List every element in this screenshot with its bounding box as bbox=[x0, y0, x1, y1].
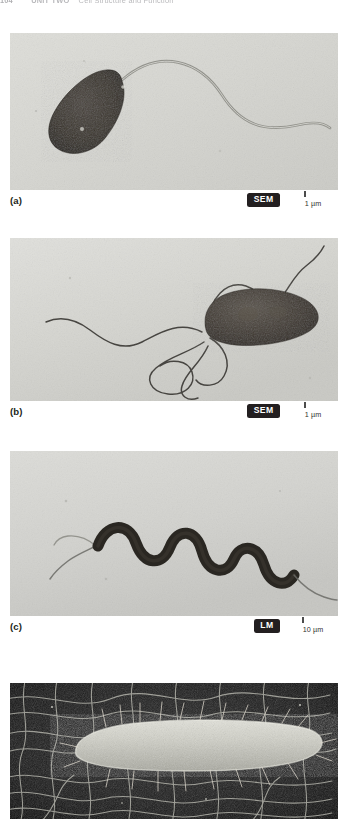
figure-panel-a: (a) SEM 1 µm bbox=[10, 33, 338, 212]
panel-letter-a: (a) bbox=[10, 195, 22, 206]
scale-bar-label-b: 1 µm bbox=[305, 410, 322, 419]
micrograph-c bbox=[10, 451, 338, 616]
micrograph-d bbox=[10, 683, 338, 819]
figure-panel-c: (c) LM 10 µm bbox=[10, 451, 338, 638]
scale-bar-label-a: 1 µm bbox=[305, 199, 322, 208]
caption-row-b: (b) SEM 1 µm bbox=[10, 401, 338, 423]
caption-row-a: (a) SEM 1 µm bbox=[10, 190, 338, 212]
micrograph-b-artwork bbox=[10, 238, 338, 401]
caption-row-c: (c) LM 10 µm bbox=[10, 616, 338, 638]
chapter-title: Cell Structure and Function bbox=[79, 0, 174, 5]
scale-bar-label-c: 10 µm bbox=[303, 625, 324, 634]
panel-letter-b: (b) bbox=[10, 406, 23, 417]
technique-badge-b: SEM bbox=[247, 404, 280, 418]
micrograph-b bbox=[10, 238, 338, 401]
micrograph-a-artwork bbox=[10, 33, 338, 190]
panel-letter-c: (c) bbox=[10, 621, 22, 632]
unit-label: UNIT TWO bbox=[31, 0, 69, 5]
micrograph-d-artwork bbox=[10, 683, 338, 819]
scale-bar-c: 10 µm bbox=[288, 618, 338, 636]
technique-badge-c: LM bbox=[254, 619, 280, 633]
scale-bar-a: 1 µm bbox=[288, 192, 338, 210]
micrograph-a bbox=[10, 33, 338, 190]
running-head: 104 UNIT TWO Cell Structure and Function bbox=[0, 0, 343, 6]
figure-panel-b: (b) SEM 1 µm bbox=[10, 238, 338, 423]
technique-badge-a: SEM bbox=[247, 193, 280, 207]
micrograph-c-artwork bbox=[10, 451, 338, 616]
figure-panel-d bbox=[10, 683, 338, 819]
page-folio: 104 bbox=[0, 0, 13, 5]
scale-bar-b: 1 µm bbox=[288, 403, 338, 421]
